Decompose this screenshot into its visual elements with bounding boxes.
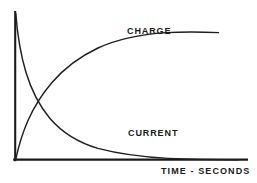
charge-curve bbox=[16, 32, 219, 160]
x-axis-label: TIME - SECONDS bbox=[161, 167, 250, 176]
charge-current-figure: CHARGE CURRENT TIME - SECONDS bbox=[0, 0, 257, 183]
charge-series-label: CHARGE bbox=[127, 27, 171, 36]
current-series-label: CURRENT bbox=[128, 129, 178, 138]
